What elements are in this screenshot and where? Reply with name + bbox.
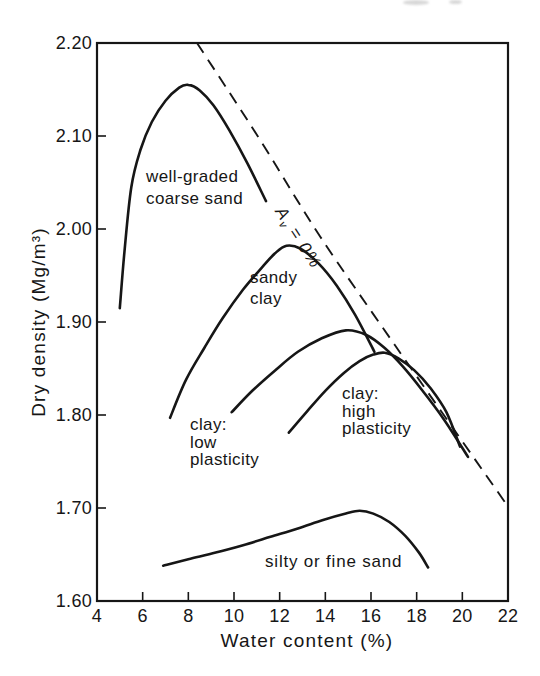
- x-tick-label: 22: [486, 605, 530, 627]
- y-tick-label: 2.20: [56, 32, 92, 54]
- curve-label-silty-fine-sand: silty or fine sand: [265, 551, 402, 573]
- plot-frame: [97, 43, 508, 601]
- x-tick-label: 20: [440, 605, 484, 627]
- curve-label-clay-high-plasticity: clay: high plasticity: [342, 385, 411, 438]
- x-axis-title: Water content (%): [221, 630, 394, 652]
- compaction-chart-plot: [0, 0, 540, 676]
- x-tick-label: 16: [349, 605, 393, 627]
- x-tick-label: 6: [121, 605, 165, 627]
- y-tick-label: 2.10: [56, 125, 92, 147]
- y-tick-label: 1.70: [56, 497, 92, 519]
- y-axis-title: Dry density (Mg/m³): [28, 227, 50, 417]
- curve-label-coarse-sand: well-graded coarse sand: [146, 166, 243, 209]
- x-tick-label: 4: [75, 605, 119, 627]
- curves-group: [120, 43, 507, 568]
- y-tick-label: 1.90: [56, 311, 92, 333]
- y-tick-label: 2.00: [56, 218, 92, 240]
- x-tick-label: 18: [395, 605, 439, 627]
- x-tick-label: 14: [303, 605, 347, 627]
- curve-label-clay-low-plasticity: clay: low plasticity: [190, 416, 259, 469]
- av-label-value: = 0%: [281, 219, 325, 273]
- x-tick-label: 10: [212, 605, 256, 627]
- x-tick-label: 8: [166, 605, 210, 627]
- figure-page: 2.202.102.001.901.801.701.60 46810121416…: [0, 0, 540, 676]
- x-tick-label: 12: [258, 605, 302, 627]
- y-tick-label: 1.80: [56, 404, 92, 426]
